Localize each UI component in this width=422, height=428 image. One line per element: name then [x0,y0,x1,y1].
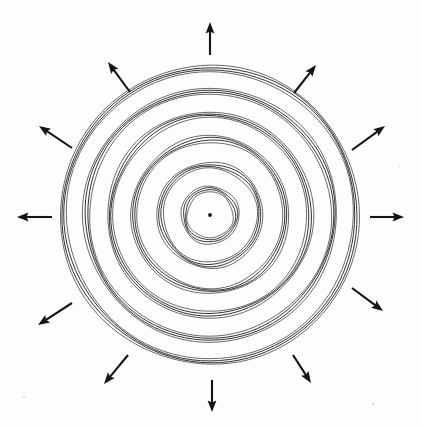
wavefront-diagram [0,0,422,428]
center-dot [208,213,212,217]
center-point-group [208,213,212,217]
figure-canvas [0,0,422,428]
